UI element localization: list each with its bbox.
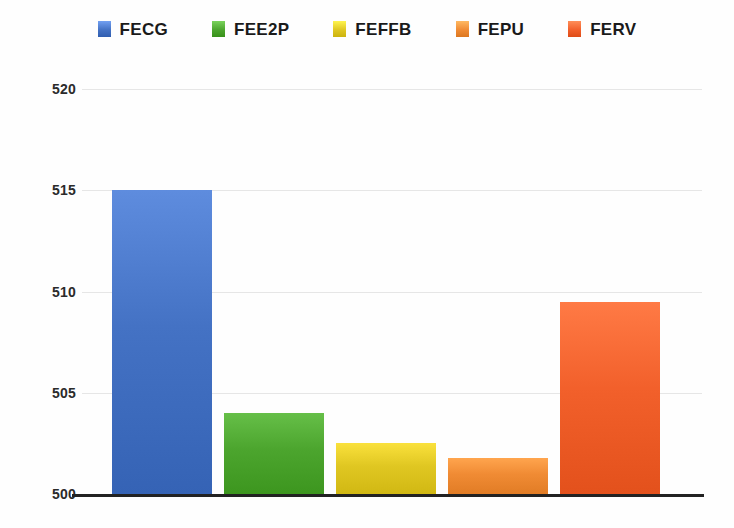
bar-series-group	[0, 0, 734, 528]
bar-fepu[interactable]	[448, 458, 548, 494]
plot-area: 500505510515520	[0, 0, 734, 528]
bar-ferv[interactable]	[560, 302, 660, 494]
bar-fecg[interactable]	[112, 190, 212, 494]
bar-fee2p[interactable]	[224, 413, 324, 494]
bar-chart: FECG FEE2P FEFFB FEPU FERV 5005055105155…	[0, 0, 734, 528]
bar-feffb[interactable]	[336, 443, 436, 494]
